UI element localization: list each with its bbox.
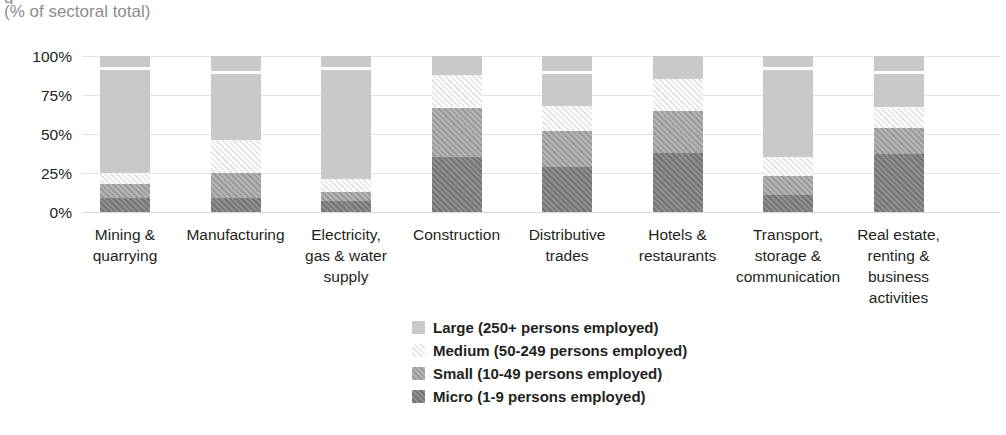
bar-segment-large xyxy=(874,56,924,107)
stacked-bar xyxy=(542,56,592,212)
stacked-bar xyxy=(211,56,261,212)
stacked-bar xyxy=(653,56,703,212)
x-axis-baseline xyxy=(82,212,1000,213)
x-axis-category-labels: Mining &quarryingManufacturingElectricit… xyxy=(82,224,1000,319)
bar-segment-divider xyxy=(763,67,813,70)
bar-segment-small xyxy=(542,131,592,167)
bar-segment-divider xyxy=(542,71,592,74)
category-label-line: Transport, xyxy=(732,224,844,245)
legend-swatch-micro-icon xyxy=(412,390,425,403)
bar-segment-large xyxy=(542,56,592,106)
legend-item-label: Large (250+ persons employed) xyxy=(433,319,659,336)
stacked-bar xyxy=(321,56,371,212)
category-label-line: Manufacturing xyxy=(180,224,292,245)
bar-segment-divider xyxy=(321,67,371,70)
category-label-line: trades xyxy=(511,245,623,266)
category-label-line: supply xyxy=(290,266,402,287)
bar-segment-medium xyxy=(763,157,813,176)
y-axis-tick-label: 0% xyxy=(12,205,72,221)
bar-segment-divider xyxy=(100,67,150,70)
bar-segment-micro xyxy=(100,198,150,212)
x-axis-category-label: Real estate,renting &businessactivities xyxy=(843,224,955,308)
legend-item-label: Small (10-49 persons employed) xyxy=(433,365,662,382)
legend-swatch-small-icon xyxy=(412,367,425,380)
category-label-line: Construction xyxy=(401,224,513,245)
x-axis-category-label: Distributivetrades xyxy=(511,224,623,266)
legend-item-large[interactable]: Large (250+ persons employed) xyxy=(412,316,832,339)
bar-segment-divider xyxy=(874,71,924,74)
bar-segment-micro xyxy=(432,157,482,212)
legend-item-micro[interactable]: Micro (1-9 persons employed) xyxy=(412,385,832,408)
plot-area xyxy=(82,56,1000,212)
bar-segment-large xyxy=(211,56,261,140)
category-label-line: Distributive xyxy=(511,224,623,245)
bar-segment-small xyxy=(321,192,371,201)
bar-segment-small xyxy=(432,108,482,158)
chart-legend: Large (250+ persons employed)Medium (50-… xyxy=(412,316,832,408)
legend-item-label: Medium (50-249 persons employed) xyxy=(433,342,687,359)
legend-item-medium[interactable]: Medium (50-249 persons employed) xyxy=(412,339,832,362)
y-axis-tick-label: 100% xyxy=(12,49,72,65)
category-label-line: Hotels & xyxy=(622,224,734,245)
bar-segment-small xyxy=(211,173,261,198)
category-label-line: gas & water xyxy=(290,245,402,266)
stacked-bar xyxy=(763,56,813,212)
y-axis-tick-label: 75% xyxy=(12,88,72,104)
x-axis-category-label: Transport,storage &communication xyxy=(732,224,844,287)
category-label-line: renting & xyxy=(843,245,955,266)
bar-segment-small xyxy=(653,111,703,153)
bar-segment-micro xyxy=(874,154,924,212)
y-axis-tick-label: 50% xyxy=(12,127,72,143)
legend-swatch-medium-icon xyxy=(412,344,425,357)
category-label-line: storage & xyxy=(732,245,844,266)
category-label-line: restaurants xyxy=(622,245,734,266)
x-axis-category-label: Manufacturing xyxy=(180,224,292,245)
legend-item-label: Micro (1-9 persons employed) xyxy=(433,388,646,405)
stacked-bar xyxy=(874,56,924,212)
chart-container: g (% of sectoral total) 100%75%50%25%0% … xyxy=(0,0,1006,435)
bar-segment-large xyxy=(100,56,150,173)
bar-segment-small xyxy=(874,128,924,155)
bar-segment-micro xyxy=(211,198,261,212)
chart-subtitle: (% of sectoral total) xyxy=(4,2,150,22)
bar-segment-medium xyxy=(874,108,924,128)
bar-segment-medium xyxy=(321,179,371,191)
stacked-bar xyxy=(432,56,482,212)
stacked-bar xyxy=(100,56,150,212)
bar-segment-medium xyxy=(432,75,482,108)
category-label-line: communication xyxy=(732,266,844,287)
bar-segment-medium xyxy=(100,173,150,184)
x-axis-category-label: Construction xyxy=(401,224,513,245)
bar-segment-medium xyxy=(211,140,261,173)
bar-segment-micro xyxy=(321,201,371,212)
bar-segment-micro xyxy=(763,195,813,212)
bar-segment-large xyxy=(432,56,482,75)
legend-item-small[interactable]: Small (10-49 persons employed) xyxy=(412,362,832,385)
x-axis-category-label: Electricity,gas & watersupply xyxy=(290,224,402,287)
bar-segment-medium xyxy=(542,106,592,131)
bar-segment-divider xyxy=(211,71,261,74)
bar-segment-large xyxy=(763,56,813,157)
bar-segment-small xyxy=(763,176,813,195)
bar-segment-medium xyxy=(653,79,703,110)
y-axis-tick-label: 25% xyxy=(12,166,72,182)
category-label-line: Mining & xyxy=(69,224,181,245)
category-label-line: Electricity, xyxy=(290,224,402,245)
bar-segment-small xyxy=(100,184,150,198)
category-label-line: business xyxy=(843,266,955,287)
category-label-line: Real estate, xyxy=(843,224,955,245)
y-axis-labels: 100%75%50%25%0% xyxy=(0,56,72,216)
legend-swatch-large-icon xyxy=(412,321,425,334)
category-label-line: quarrying xyxy=(69,245,181,266)
bar-segment-large xyxy=(653,56,703,79)
category-label-line: activities xyxy=(843,287,955,308)
x-axis-category-label: Hotels &restaurants xyxy=(622,224,734,266)
bar-segment-large xyxy=(321,56,371,179)
bar-segment-micro xyxy=(653,153,703,212)
bar-segment-micro xyxy=(542,167,592,212)
x-axis-category-label: Mining &quarrying xyxy=(69,224,181,266)
